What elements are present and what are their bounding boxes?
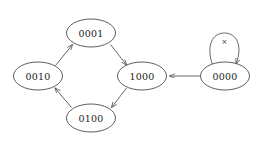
graph-canvas: × 0001 0010 1000 0100 0000 xyxy=(0,0,261,144)
node-label-1000: 1000 xyxy=(130,71,155,82)
node-0100[interactable]: 0100 xyxy=(67,104,116,132)
edge-1000-to-0100 xyxy=(112,88,127,108)
node-0010[interactable]: 0010 xyxy=(14,62,63,90)
node-label-0010: 0010 xyxy=(26,71,51,82)
node-label-0100: 0100 xyxy=(79,113,104,124)
node-1000[interactable]: 1000 xyxy=(118,62,167,90)
node-0000[interactable]: 0000 xyxy=(201,62,250,90)
node-group: 0001 0010 1000 0100 0000 xyxy=(14,19,250,132)
edge-0010-to-0001 xyxy=(56,45,73,66)
node-0001[interactable]: 0001 xyxy=(67,19,116,47)
node-label-0000: 0000 xyxy=(213,71,238,82)
self-loop-label: × xyxy=(222,38,228,46)
node-label-0001: 0001 xyxy=(79,28,104,39)
edge-0001-to-1000 xyxy=(111,45,127,66)
edge-0100-to-0010 xyxy=(55,88,72,108)
state-diagram: × 0001 0010 1000 0100 0000 xyxy=(0,0,261,144)
